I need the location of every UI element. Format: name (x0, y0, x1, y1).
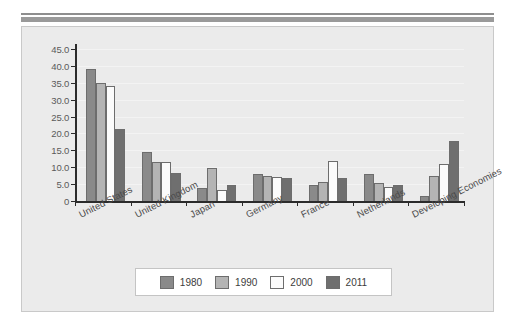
y-axis-tick-label: 25.0 (51, 111, 69, 122)
legend-swatch-2011 (326, 276, 340, 289)
bar-1980[interactable] (364, 174, 374, 201)
y-axis-tick-label: 30.0 (51, 94, 69, 105)
y-axis-tick-mark (71, 100, 75, 101)
y-axis-tick-label: 15.0 (51, 145, 69, 156)
y-axis-tick-label: 45.0 (51, 44, 69, 55)
bar-group-bars (197, 49, 236, 201)
legend-item[interactable]: 1980 (160, 276, 202, 289)
chart-figure: 05.010.015.020.025.030.035.040.045.0 Uni… (21, 26, 494, 312)
bar-1980[interactable] (253, 174, 263, 201)
x-axis-tick-mark (408, 201, 409, 206)
legend-item[interactable]: 2000 (270, 276, 312, 289)
bar-group-bars (309, 49, 348, 201)
y-axis-tick-mark (71, 66, 75, 67)
chart-legend: 1980199020002011 (135, 268, 392, 296)
y-axis-tick-mark (71, 150, 75, 151)
bar-1980[interactable] (86, 69, 96, 201)
y-axis-tick-label: 20.0 (51, 128, 69, 139)
bar-2000[interactable] (328, 161, 338, 201)
bar-group-bars (364, 49, 403, 201)
x-axis-tick-mark (75, 201, 76, 206)
bar-group-bars (420, 49, 459, 201)
bar-1990[interactable] (207, 168, 217, 201)
legend-label: 1980 (180, 277, 202, 288)
x-axis-tick-mark (297, 201, 298, 206)
legend-label: 2000 (290, 277, 312, 288)
legend-label: 1990 (235, 277, 257, 288)
bar-2011[interactable] (282, 178, 292, 201)
bar-group (364, 49, 403, 201)
bar-group (197, 49, 236, 201)
bar-2011[interactable] (338, 178, 348, 201)
bar-group (142, 49, 181, 201)
legend-item[interactable]: 1990 (215, 276, 257, 289)
bar-2011[interactable] (227, 185, 237, 201)
legend-label: 2011 (346, 277, 368, 288)
y-axis-tick-mark (71, 167, 75, 168)
y-axis-tick-label: 40.0 (51, 60, 69, 71)
y-axis-tick-label: 35.0 (51, 77, 69, 88)
x-axis-tick-mark (464, 201, 465, 206)
bar-group (309, 49, 348, 201)
plot-area: 05.010.015.020.025.030.035.040.045.0 Uni… (75, 49, 464, 201)
bar-group-bars (253, 49, 292, 201)
bar-1990[interactable] (96, 83, 106, 201)
bar-group (420, 49, 459, 201)
header-rule-thick (21, 17, 494, 22)
legend-swatch-1980 (160, 276, 174, 289)
bar-group (253, 49, 292, 201)
bar-group-bars (86, 49, 125, 201)
y-axis-tick-mark (71, 184, 75, 185)
header-rule-thin (21, 13, 494, 15)
y-axis-tick-mark (71, 83, 75, 84)
y-axis-tick-mark (71, 117, 75, 118)
bar-2000[interactable] (217, 190, 227, 201)
bar-group (86, 49, 125, 201)
legend-swatch-2000 (270, 276, 284, 289)
x-axis-tick-mark (131, 201, 132, 206)
chart-page: 05.010.015.020.025.030.035.040.045.0 Uni… (0, 0, 515, 327)
bar-2000[interactable] (106, 86, 116, 201)
y-axis-tick-label: 10.0 (51, 162, 69, 173)
bar-1980[interactable] (197, 188, 207, 201)
y-axis-tick-mark (71, 49, 75, 50)
x-axis-tick-mark (186, 201, 187, 206)
bar-1980[interactable] (142, 152, 152, 201)
x-axis-tick-mark (242, 201, 243, 206)
legend-item[interactable]: 2011 (326, 276, 368, 289)
legend-swatch-1990 (215, 276, 229, 289)
x-axis-tick-mark (353, 201, 354, 206)
bar-1980[interactable] (309, 185, 319, 201)
y-axis-tick-label: 0 (64, 196, 69, 207)
y-axis-tick-label: 5.0 (56, 179, 69, 190)
header-rule (21, 13, 494, 22)
y-axis-tick-mark (71, 133, 75, 134)
bar-group-bars (142, 49, 181, 201)
y-axis-line (75, 44, 77, 201)
